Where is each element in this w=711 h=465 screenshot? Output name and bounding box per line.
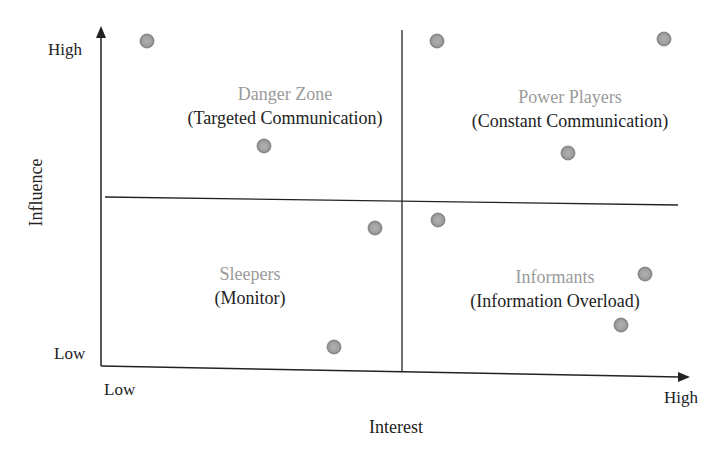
quadrant-strategy: (Monitor) bbox=[190, 286, 310, 310]
quadrant-name: Danger Zone bbox=[170, 82, 400, 106]
quadrant-name: Power Players bbox=[440, 85, 700, 109]
y-tick-low: Low bbox=[54, 344, 85, 364]
quadrant-power-players: Power Players (Constant Communication) bbox=[440, 85, 700, 133]
quadrant-name: Sleepers bbox=[190, 262, 310, 286]
data-point bbox=[430, 34, 444, 48]
quadrant-strategy: (Targeted Communication) bbox=[170, 106, 400, 130]
y-tick-high: High bbox=[48, 40, 82, 60]
quadrant-informants: Informants (Information Overload) bbox=[450, 265, 660, 313]
data-point bbox=[140, 34, 154, 48]
x-axis-arrow-icon bbox=[678, 372, 690, 382]
quadrant-strategy: (Information Overload) bbox=[450, 289, 660, 313]
data-point bbox=[561, 146, 575, 160]
data-point bbox=[368, 221, 382, 235]
data-point bbox=[614, 318, 628, 332]
x-axis-title: Interest bbox=[369, 417, 423, 438]
y-axis-arrow-icon bbox=[96, 26, 106, 38]
data-point bbox=[431, 213, 445, 227]
data-point bbox=[327, 340, 341, 354]
x-axis bbox=[101, 366, 680, 377]
y-axis-title: Influence bbox=[26, 153, 47, 233]
x-tick-high: High bbox=[664, 388, 698, 408]
data-point bbox=[257, 139, 271, 153]
quadrant-danger-zone: Danger Zone (Targeted Communication) bbox=[170, 82, 400, 130]
horizontal-divider bbox=[105, 197, 678, 205]
x-tick-low: Low bbox=[104, 380, 135, 400]
quadrant-strategy: (Constant Communication) bbox=[440, 109, 700, 133]
quadrant-name: Informants bbox=[450, 265, 660, 289]
quadrant-sleepers: Sleepers (Monitor) bbox=[190, 262, 310, 310]
data-point bbox=[657, 32, 671, 46]
